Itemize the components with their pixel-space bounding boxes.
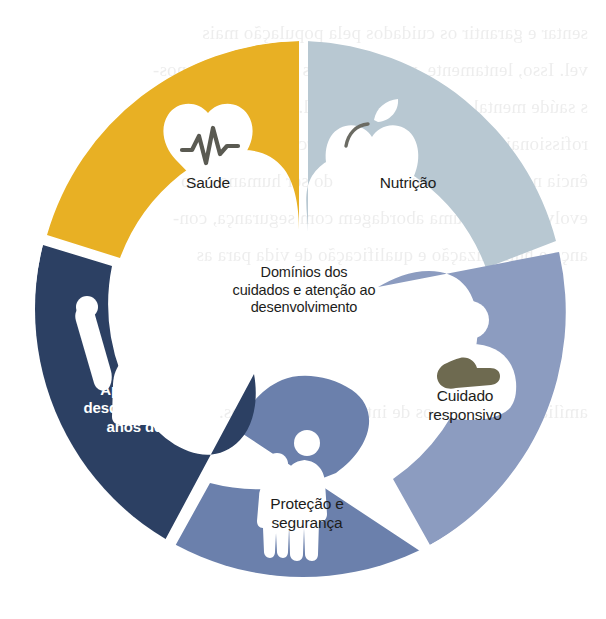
wheel-svg xyxy=(0,0,606,619)
heart-pulse-icon xyxy=(163,104,252,193)
nurturing-care-wheel: Saúde Nutrição Cuidado responsivo Proteç… xyxy=(0,0,606,619)
